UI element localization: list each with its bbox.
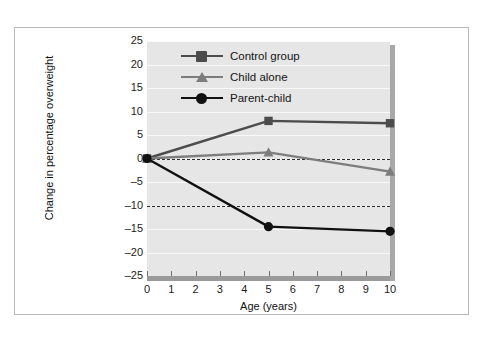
x-axis-tick xyxy=(341,271,342,276)
legend-swatch xyxy=(181,91,223,105)
y-axis-tick-label: –25 xyxy=(113,269,143,281)
x-axis-bar xyxy=(147,276,390,281)
y-axis-tick-labels: 2520151050–5–10–15–20–25 xyxy=(111,41,143,276)
figure-frame: 2520151050–5–10–15–20–25 Change in perce… xyxy=(14,27,469,315)
x-axis-tick-label: 5 xyxy=(257,283,281,295)
x-axis-tick xyxy=(366,271,367,276)
x-axis-tick xyxy=(269,271,270,276)
plot-shadow-right xyxy=(390,45,395,281)
x-axis-tick-label: 1 xyxy=(159,283,183,295)
legend-item: Parent-child xyxy=(181,87,361,108)
y-axis-tick-label: 20 xyxy=(113,58,143,70)
legend-marker-circle-icon xyxy=(196,93,207,104)
y-axis-tick-label: 0 xyxy=(113,152,143,164)
data-point-marker xyxy=(264,222,273,231)
x-axis-tick-label: 4 xyxy=(232,283,256,295)
y-axis-tick-label: 10 xyxy=(113,105,143,117)
y-axis-tick-label: 25 xyxy=(113,34,143,46)
x-axis-tick xyxy=(147,271,148,276)
legend-item: Control group xyxy=(181,45,361,66)
data-point-marker xyxy=(386,119,394,127)
legend-swatch xyxy=(181,49,223,63)
legend-label: Control group xyxy=(223,50,300,62)
legend-marker-square-icon xyxy=(196,51,207,62)
data-point-marker xyxy=(142,154,151,163)
y-axis-tick-label: –15 xyxy=(113,222,143,234)
x-axis-tick-label: 0 xyxy=(135,283,159,295)
y-axis-tick-label: 5 xyxy=(113,128,143,140)
series-child-alone xyxy=(142,147,395,176)
x-axis-tick xyxy=(220,271,221,276)
legend-item: Child alone xyxy=(181,66,361,87)
x-axis-tick-label: 7 xyxy=(305,283,329,295)
y-axis-title: Change in percentage overweight xyxy=(43,38,55,238)
data-point-marker xyxy=(385,227,394,236)
x-axis-tick xyxy=(317,271,318,276)
x-axis-tick-label: 3 xyxy=(208,283,232,295)
y-axis-tick-label: –5 xyxy=(113,175,143,187)
legend-label: Child alone xyxy=(223,71,288,83)
x-axis-tick-label: 9 xyxy=(354,283,378,295)
x-axis-title: Age (years) xyxy=(147,300,390,312)
y-axis-tick-label: 15 xyxy=(113,81,143,93)
chart-legend: Control groupChild aloneParent-child xyxy=(181,45,361,108)
legend-label: Parent-child xyxy=(223,92,291,104)
legend-marker-triangle-icon xyxy=(196,72,208,82)
x-axis-tick xyxy=(196,271,197,276)
x-axis-tick-label: 8 xyxy=(329,283,353,295)
x-axis-tick xyxy=(390,271,391,276)
x-axis-tick-label: 10 xyxy=(378,283,402,295)
legend-swatch xyxy=(181,70,223,84)
x-axis-tick-label: 2 xyxy=(184,283,208,295)
series-line xyxy=(147,159,390,232)
x-axis-tick xyxy=(171,271,172,276)
data-point-marker xyxy=(264,117,272,125)
x-axis-tick xyxy=(244,271,245,276)
x-axis-tick xyxy=(293,271,294,276)
y-axis-tick-label: –10 xyxy=(113,199,143,211)
x-axis-tick-label: 6 xyxy=(281,283,305,295)
y-axis-tick-label: –20 xyxy=(113,246,143,258)
